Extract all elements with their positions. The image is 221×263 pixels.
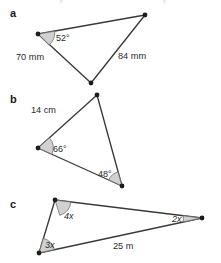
triangle-c-angle-3x-label: 3x: [45, 240, 55, 250]
triangles-figure: a 52° 70 mm 84 mm b: [0, 0, 221, 263]
triangle-a-side-84mm-label: 84 mm: [118, 51, 146, 61]
triangle-b-vertex-top: [95, 93, 100, 98]
part-a-label: a: [10, 7, 17, 19]
part-b-label: b: [10, 93, 17, 105]
triangle-b-angle-48-label: 48°: [98, 169, 112, 179]
top-crop-artifacts: [60, 0, 166, 4]
triangle-b-vertex-bottom-right: [120, 184, 125, 189]
triangle-c-vertex-top-left: [53, 198, 58, 203]
figure-canvas: a 52° 70 mm 84 mm b: [0, 0, 221, 263]
triangle-a-vertex-right: [143, 13, 148, 18]
triangle-c-vertex-right: [200, 216, 205, 221]
part-c-label: c: [10, 198, 16, 210]
triangle-a: [38, 15, 145, 83]
triangle-a-vertex-bottom: [89, 81, 94, 86]
triangle-a-side-70mm-label: 70 mm: [16, 52, 44, 62]
triangle-b-angle-66-label: 66°: [53, 144, 67, 154]
triangle-c-angle-wedge-2x: [183, 216, 202, 222]
part-a-group: a 52° 70 mm 84 mm: [10, 7, 147, 85]
triangle-c-vertex-bottom-left: [37, 251, 42, 256]
part-b-group: b 14 cm 66° 48°: [10, 93, 124, 189]
triangle-b-angle-wedge-66: [38, 138, 53, 154]
triangle-c-angle-4x-label: 4x: [64, 211, 74, 221]
part-c-group: c 4x 3x 2x 25 m: [10, 198, 204, 256]
triangle-c-side-25m-label: 25 m: [113, 241, 134, 251]
triangle-a-angle-52-label: 52°: [56, 33, 70, 43]
triangle-b-side-14cm-label: 14 cm: [31, 105, 56, 115]
triangle-a-side-right: [91, 15, 145, 83]
triangle-a-vertex-left: [36, 32, 41, 37]
triangle-c-angle-2x-label: 2x: [171, 214, 182, 224]
triangle-b-vertex-left: [36, 146, 41, 151]
